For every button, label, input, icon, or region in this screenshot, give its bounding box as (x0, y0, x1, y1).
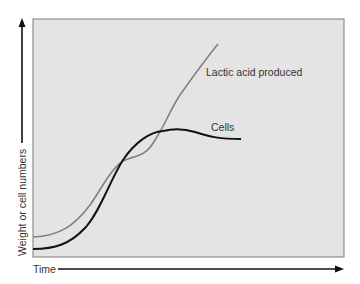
y-axis-arrowhead-icon (19, 18, 26, 27)
y-axis-label: Weight or cell numbers (16, 149, 28, 256)
x-axis-arrowhead-icon (335, 266, 344, 273)
x-axis-label: Time (33, 263, 56, 275)
plot-area (33, 19, 344, 257)
cells-label: Cells (211, 121, 234, 133)
lactic-acid-label: Lactic acid produced (206, 66, 302, 78)
chart: Lactic acid produced Cells Weight or cel… (0, 0, 360, 284)
